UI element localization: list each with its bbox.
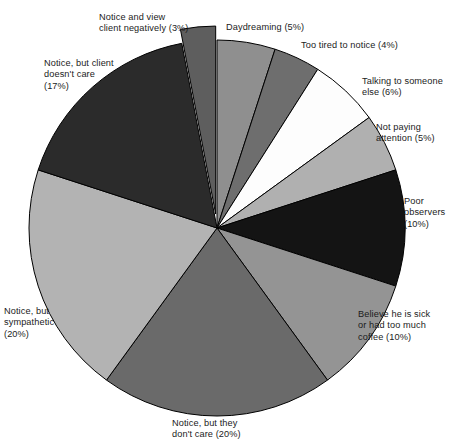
slice-label-notice-and-view-client-negatively: Notice and view client negatively (3%) — [99, 12, 189, 35]
slice-label-notice-but-they-dont-care: Notice, but they don't care (20%) — [172, 418, 241, 441]
pie-chart-figure: Daydreaming (5%) Too tired to notice (4%… — [0, 0, 457, 442]
slice-label-believe-he-is-sick: Believe he is sick or had too much coffe… — [358, 309, 430, 343]
slice-label-notice-but-sympathetic: Notice, but sympathetic (20%) — [4, 306, 54, 340]
slice-label-not-paying-attention: Not paying attention (5%) — [376, 122, 435, 145]
slice-label-too-tired-to-notice: Too tired to notice (4%) — [301, 40, 398, 51]
slice-label-talking-to-someone-else: Talking to someone else (6%) — [362, 76, 443, 99]
slice-label-poor-observers: Poor observers (10%) — [404, 196, 445, 230]
slice-label-daydreaming: Daydreaming (5%) — [226, 22, 304, 33]
slice-label-notice-but-client-doesnt-care: Notice, but client doesn't care (17%) — [44, 58, 114, 92]
